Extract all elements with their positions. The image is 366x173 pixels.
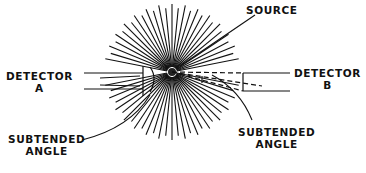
subtended-angle-right-label: SUBTENDED ANGLE — [238, 126, 315, 150]
diagram-canvas: SOURCE DETECTOR A DETECTOR B SUBTENDED A… — [0, 0, 366, 173]
detector-a-label: DETECTOR A — [6, 70, 73, 94]
subtended-angle-left-label: SUBTENDED ANGLE — [8, 133, 85, 157]
detector-b-label: DETECTOR B — [294, 67, 361, 91]
source-label: SOURCE — [246, 4, 298, 16]
detector-a-bracket — [84, 66, 154, 96]
